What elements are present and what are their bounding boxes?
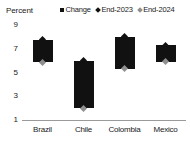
x-axis-label-chile: Chile [75, 125, 92, 134]
y-axis-tick-1: 1 [14, 116, 18, 124]
y-axis-unit-label: Percent [6, 6, 33, 15]
legend-diamond-dark-icon [95, 7, 101, 13]
bar-group-mexico[interactable] [145, 25, 186, 120]
bar-group-brazil[interactable] [22, 25, 63, 120]
y-axis-tick-9: 9 [14, 21, 18, 29]
y-axis-tick-3: 3 [14, 92, 18, 100]
x-axis-line [22, 120, 186, 121]
plot-area: 97531 [22, 25, 186, 120]
end-2024-marker-colombia[interactable] [121, 65, 128, 72]
legend-item-end-2024[interactable]: End-2024 [138, 6, 175, 14]
legend-label-end-2024: End-2024 [143, 6, 174, 14]
legend-item-change[interactable]: Change [60, 6, 91, 14]
x-axis-label-brazil: Brazil [33, 125, 52, 134]
legend-item-end-2023[interactable]: End-2023 [96, 6, 133, 14]
bar-group-colombia[interactable] [104, 25, 145, 120]
legend-label-end-2023: End-2023 [101, 6, 132, 14]
bar-group-chile[interactable] [63, 25, 104, 120]
policy-rate-chart: Percent Change End-2023 End-2024 97531 B… [0, 0, 190, 144]
x-axis-label-mexico: Mexico [153, 125, 177, 134]
legend-diamond-gray-icon [137, 7, 143, 13]
legend-label-change: Change [66, 6, 91, 14]
legend-square-icon [60, 8, 64, 12]
y-axis-tick-5: 5 [14, 69, 18, 77]
change-bar-chile[interactable] [74, 61, 94, 109]
y-axis-tick-7: 7 [14, 45, 18, 53]
chart-legend: Change End-2023 End-2024 [60, 6, 175, 14]
x-axis-label-colombia: Colombia [108, 125, 140, 134]
